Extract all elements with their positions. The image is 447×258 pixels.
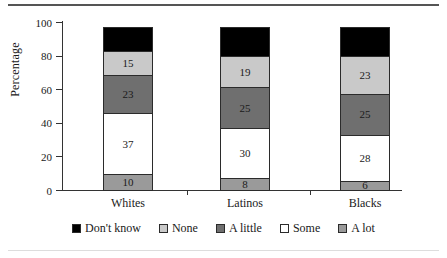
stacked-bar-chart-figure: Percentage 100 80 60 40 20 0 15 23 37 10 (0, 0, 447, 258)
legend-swatch-dont-know-icon (72, 224, 81, 233)
legend-label-dont-know: Don't know (85, 221, 141, 236)
legend-swatch-a-little-icon (216, 224, 225, 233)
segment-latinos-a-little[interactable]: 25 (220, 87, 270, 129)
y-tick-40: 40 (56, 123, 62, 124)
segment-blacks-a-lot[interactable]: 6 (340, 181, 390, 191)
legend-swatch-none-icon (159, 224, 168, 233)
legend-label-none: None (172, 221, 198, 236)
y-tick-60: 60 (56, 89, 62, 90)
y-tick-100: 100 (56, 22, 62, 23)
legend-item-a-little[interactable]: A little (216, 221, 262, 236)
legend-item-a-lot[interactable]: A lot (338, 221, 375, 236)
segment-whites-a-little[interactable]: 23 (103, 75, 153, 114)
x-category-label-latinos: Latinos (185, 196, 305, 211)
bar-whites[interactable]: 15 23 37 10 (103, 27, 153, 190)
segment-whites-dont-know[interactable] (103, 27, 153, 52)
legend-item-none[interactable]: None (159, 221, 198, 236)
y-tick-label-0: 0 (47, 185, 53, 196)
segment-whites-none[interactable]: 15 (103, 51, 153, 76)
segment-latinos-dont-know[interactable] (220, 27, 270, 57)
legend-swatch-some-icon (280, 224, 289, 233)
legend-item-some[interactable]: Some (280, 221, 320, 236)
bottom-divider-rule (8, 250, 439, 251)
legend-label-some: Some (293, 221, 320, 236)
x-tick-sep-2 (310, 190, 311, 195)
y-tick-label-80: 80 (41, 51, 52, 62)
y-tick-label-60: 60 (41, 84, 52, 95)
y-axis-title: Percentage (8, 20, 23, 120)
segment-whites-some[interactable]: 37 (103, 113, 153, 175)
segment-whites-a-lot[interactable]: 10 (103, 174, 153, 191)
y-tick-label-100: 100 (36, 17, 53, 28)
segment-latinos-some[interactable]: 30 (220, 128, 270, 178)
y-tick-0: 0 (56, 190, 62, 191)
y-tick-label-20: 20 (41, 151, 52, 162)
segment-latinos-a-lot[interactable]: 8 (220, 178, 270, 191)
legend-swatch-a-lot-icon (338, 224, 347, 233)
segment-blacks-none[interactable]: 23 (340, 56, 390, 95)
top-divider-rule (8, 4, 439, 6)
x-category-label-whites: Whites (68, 196, 188, 211)
y-tick-20: 20 (56, 156, 62, 157)
bar-latinos[interactable]: 19 25 30 8 (220, 27, 270, 190)
y-tick-label-40: 40 (41, 118, 52, 129)
bar-blacks[interactable]: 23 25 28 6 (340, 27, 390, 190)
y-tick-80: 80 (56, 56, 62, 57)
x-tick-sep-1 (187, 190, 188, 195)
chart-legend: Don't know None A little Some A lot (0, 221, 447, 236)
segment-blacks-dont-know[interactable] (340, 27, 390, 57)
x-category-label-blacks: Blacks (305, 196, 425, 211)
legend-label-a-lot: A lot (351, 221, 375, 236)
segment-blacks-a-little[interactable]: 25 (340, 94, 390, 136)
legend-label-a-little: A little (229, 221, 262, 236)
segment-latinos-none[interactable]: 19 (220, 56, 270, 88)
segment-blacks-some[interactable]: 28 (340, 135, 390, 182)
legend-item-dont-know[interactable]: Don't know (72, 221, 141, 236)
plot-area: 15 23 37 10 19 25 30 8 23 25 28 6 (63, 22, 400, 190)
